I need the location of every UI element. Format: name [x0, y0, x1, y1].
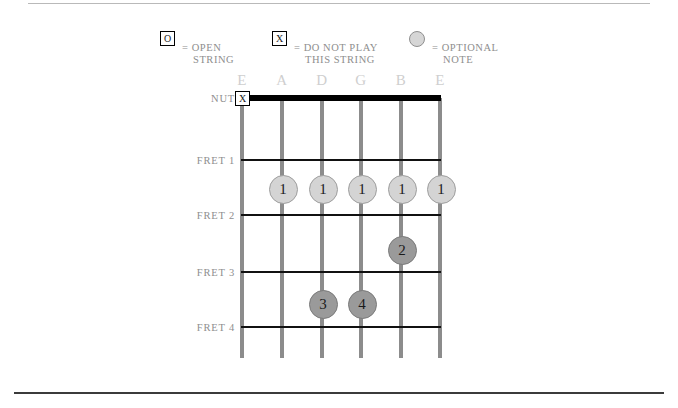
string-d — [320, 98, 324, 358]
fret-line-4 — [241, 326, 441, 328]
string-label-4: G — [350, 72, 372, 89]
chord-diagram: E A D G B E NUT FRET 1 FRET 2 FRET 3 FRE… — [0, 0, 678, 408]
string-a — [280, 98, 284, 358]
fret-line-3 — [241, 271, 441, 273]
finger-dot-high-e-fret1: 1 — [427, 175, 456, 204]
nut-bar — [241, 95, 441, 101]
finger-dot-a-fret1: 1 — [269, 175, 298, 204]
string-label-1: E — [231, 72, 253, 89]
finger-dot-d-fret1: 1 — [309, 175, 338, 204]
string-high-e — [438, 98, 442, 358]
bottom-divider — [14, 392, 664, 394]
string-low-e — [240, 98, 244, 358]
finger-dot-g-fret3: 4 — [348, 290, 377, 319]
finger-dot-d-fret3: 3 — [309, 290, 338, 319]
finger-dot-g-fret1: 1 — [348, 175, 377, 204]
finger-dot-b-fret2: 2 — [388, 236, 417, 265]
finger-dot-b-fret1: 1 — [388, 175, 417, 204]
string-label-2: A — [271, 72, 293, 89]
string-b — [399, 98, 403, 358]
mute-marker-low-e: X — [235, 91, 250, 106]
string-label-5: B — [390, 72, 412, 89]
fret-label-1: FRET 1 — [165, 155, 235, 166]
string-label-3: D — [311, 72, 333, 89]
fret-line-1 — [241, 159, 441, 161]
fret-label-3: FRET 3 — [165, 267, 235, 278]
fret-label-2: FRET 2 — [165, 210, 235, 221]
string-g — [359, 98, 363, 358]
fret-label-4: FRET 4 — [165, 322, 235, 333]
fret-line-2 — [241, 214, 441, 216]
nut-label: NUT — [165, 93, 235, 104]
string-label-6: E — [429, 72, 451, 89]
